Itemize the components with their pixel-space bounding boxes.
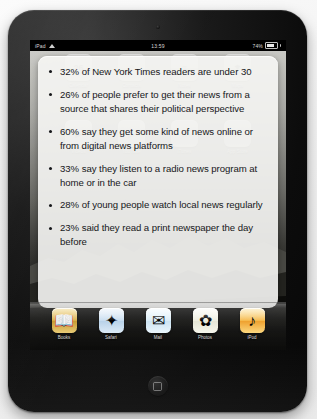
bullet-list: 32% of New York Times readers are under … bbox=[46, 65, 268, 250]
bullet-dot-icon bbox=[49, 130, 52, 133]
status-bar: iPad 13:59 74% bbox=[30, 40, 286, 51]
bullet-dot-icon bbox=[49, 204, 52, 207]
dock-label: Books bbox=[58, 335, 71, 340]
dock-label: Mail bbox=[154, 335, 162, 340]
ipad-screen[interactable]: 26 Calendar ☺ Contacts ≡ Notes ⌖ Maps bbox=[30, 40, 286, 350]
list-item: 32% of New York Times readers are under … bbox=[46, 65, 268, 79]
wifi-icon bbox=[49, 44, 55, 48]
dock-label: Safari bbox=[105, 335, 117, 340]
dock-item-books[interactable]: 📖 Books bbox=[49, 308, 79, 340]
page-background: 26 Calendar ☺ Contacts ≡ Notes ⌖ Maps bbox=[0, 0, 317, 419]
carrier-label: iPad bbox=[35, 43, 46, 49]
ipad-device: 26 Calendar ☺ Contacts ≡ Notes ⌖ Maps bbox=[8, 10, 307, 412]
status-bar-left: iPad bbox=[35, 43, 151, 49]
status-bar-clock: 13:59 bbox=[151, 43, 165, 49]
dock-label: Photos bbox=[198, 335, 212, 340]
battery-icon bbox=[265, 42, 278, 49]
dock-item-mail[interactable]: ✉ Mail bbox=[143, 308, 173, 340]
list-item: 60% say they get some kind of news onlin… bbox=[46, 125, 268, 153]
dock: 📖 Books ✦ Safari ✉ Mail ✿ Photos ♪ iP bbox=[30, 302, 286, 350]
home-button[interactable] bbox=[148, 376, 168, 396]
bullet-text: 28% of young people watch local news reg… bbox=[60, 199, 263, 210]
dock-item-photos[interactable]: ✿ Photos bbox=[190, 308, 220, 340]
bullet-dot-icon bbox=[49, 227, 52, 230]
bullet-text: 26% of people prefer to get their news f… bbox=[60, 89, 250, 114]
ipod-icon[interactable]: ♪ bbox=[240, 308, 265, 333]
mail-icon[interactable]: ✉ bbox=[146, 308, 171, 333]
books-icon[interactable]: 📖 bbox=[52, 308, 77, 333]
list-item: 26% of people prefer to get their news f… bbox=[46, 88, 268, 116]
list-item: 28% of young people watch local news reg… bbox=[46, 198, 268, 212]
dock-label: iPod bbox=[247, 335, 256, 340]
bullet-text: 60% say they get some kind of news onlin… bbox=[60, 126, 253, 151]
battery-percent-label: 74% bbox=[252, 43, 263, 49]
bullet-text: 33% say they listen to a radio news prog… bbox=[60, 163, 257, 188]
bullet-dot-icon bbox=[49, 70, 52, 73]
photos-icon[interactable]: ✿ bbox=[193, 308, 218, 333]
dock-item-safari[interactable]: ✦ Safari bbox=[96, 308, 126, 340]
dock-item-ipod[interactable]: ♪ iPod bbox=[237, 308, 267, 340]
safari-icon[interactable]: ✦ bbox=[99, 308, 124, 333]
note-panel[interactable]: 32% of New York Times readers are under … bbox=[38, 56, 278, 308]
list-item: 23% said they read a print newspaper the… bbox=[46, 221, 268, 249]
bullet-dot-icon bbox=[49, 167, 52, 170]
bullet-text: 32% of New York Times readers are under … bbox=[60, 66, 251, 77]
status-bar-right: 74% bbox=[165, 42, 281, 49]
bullet-dot-icon bbox=[49, 93, 52, 96]
battery-cap-icon bbox=[280, 44, 281, 47]
bullet-text: 23% said they read a print newspaper the… bbox=[60, 222, 253, 247]
home-button-square-icon bbox=[153, 382, 162, 391]
front-camera-icon bbox=[156, 25, 160, 29]
list-item: 33% say they listen to a radio news prog… bbox=[46, 162, 268, 190]
